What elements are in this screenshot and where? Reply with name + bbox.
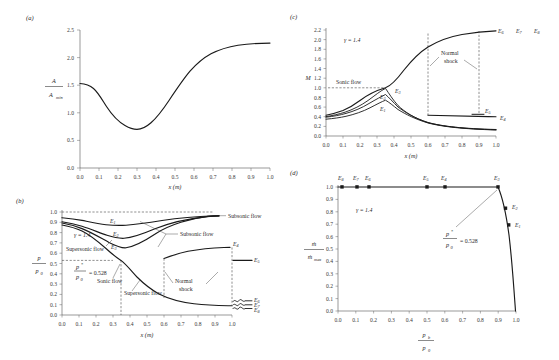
panel-c-e3-curve <box>326 88 496 129</box>
panel-b-critical-denominator: p <box>75 273 79 280</box>
panel-c-ytick-10: 2.0 <box>314 37 321 43</box>
panel-b-ytick-9: 0.9 <box>50 219 57 225</box>
panel-a-ytick-4: 2.0 <box>67 55 74 61</box>
panel-d-ytick-5: 0.5 <box>326 246 333 252</box>
panel-c-ytick-8: 1.6 <box>314 56 321 62</box>
panel-d-markers <box>340 185 510 226</box>
panel-c-gamma-label: γ = 1.4 <box>344 37 360 43</box>
panel-b-xtick-4: 0.4 <box>127 321 134 327</box>
panel-a-y-axis-label: A A min <box>45 77 63 100</box>
panel-d-critical-value: = 0.528 <box>460 238 478 244</box>
panel-b-ytick-10: 1.0 <box>50 209 57 215</box>
panel-a-tag: (a) <box>26 14 34 22</box>
panel-b-e1-curve <box>62 216 219 226</box>
panel-b-ytick-4: 0.4 <box>50 271 57 277</box>
panel-c-xtick-9: 0.9 <box>476 142 483 148</box>
panel-c: (c) 0.0 0.2 0.4 0.6 0.8 1.0 1.2 1.4 1.6 … <box>288 8 556 168</box>
panel-d-ylabel-denominator: ṁ <box>308 253 313 260</box>
panel-c-ytick-6: 1.2 <box>314 75 321 81</box>
panel-a-x-axis-label: x (m) <box>168 183 182 191</box>
panel-b-ytick-2: 0.2 <box>50 291 57 297</box>
panel-b-critical-numerator: p <box>75 263 79 270</box>
panel-b-ylabel-denominator-sub: 0 <box>41 271 44 276</box>
panel-c-x-ticks: 0.0 0.1 0.2 0.3 0.4 0.5 0.6 0.7 0.8 0.9 … <box>323 136 500 148</box>
panel-b-ylabel-numerator: p <box>36 254 40 261</box>
panel-c-xtick-0: 0.0 <box>323 142 330 148</box>
panel-c-label-e8: E8 <box>533 28 541 35</box>
panel-a-xtick-1: 0.1 <box>96 174 103 180</box>
panel-d-ytick-0: 0.0 <box>326 308 333 314</box>
panel-d-label-e4: E4 <box>440 175 447 182</box>
panel-b-label-e4: E4 <box>232 241 239 248</box>
panel-b-xtick-5: 0.5 <box>144 321 151 327</box>
panel-c-label-e4: E4 <box>499 115 506 122</box>
panel-d-marker-e1 <box>507 223 510 226</box>
panel-b-label-e1: E1 <box>109 218 116 225</box>
panel-d-marker-e2 <box>504 207 507 210</box>
panel-c-ytick-4: 0.8 <box>314 95 321 101</box>
panel-a-xtick-4: 0.4 <box>153 174 160 180</box>
panel-d-xtick-6: 0.6 <box>441 317 448 323</box>
panel-a-ylabel-numerator: A <box>51 77 56 84</box>
panel-c-curve-labels: E6 E7 E8 E3 E2 E1 E5 E4 <box>379 28 541 122</box>
panel-d-label-e6: E6 <box>364 175 372 182</box>
panel-d-tag: (d) <box>290 169 298 177</box>
panel-c-x-axis-label: x (m) <box>404 152 418 160</box>
panel-b-y-axis-label: p p 0 <box>32 254 46 276</box>
panel-d-xlabel-denominator-sub: 0 <box>428 348 431 353</box>
panel-b-supersonic-flow-label-2: Supersonic flow <box>124 290 163 296</box>
panel-b-ytick-8: 0.8 <box>50 230 57 236</box>
panel-c-ytick-3: 0.6 <box>314 104 321 110</box>
panel-b-ytick-5: 0.5 <box>50 261 57 267</box>
panel-d-gamma-label: γ = 1.4 <box>356 207 372 213</box>
panel-b-x-ticks: 0.0 0.1 0.2 0.3 0.4 0.5 0.6 0.7 0.8 0.9 … <box>59 315 236 327</box>
panel-c-label-e5: E5 <box>484 108 491 115</box>
panel-d-xtick-8: 0.8 <box>477 317 484 323</box>
panel-b-xtick-10: 1.0 <box>229 321 236 327</box>
panel-d-marker-e3 <box>496 185 499 188</box>
panel-c-shock-leader-right <box>464 60 477 69</box>
panel-a-svg: (a) 0.0 0.5 1.0 1.5 2.0 2.5 0.0 0.1 0.2 … <box>20 8 280 183</box>
panel-d-label-e7: E7 <box>352 175 360 182</box>
panel-b-normal-shock-label-line1: Normal <box>175 278 193 284</box>
panel-a-ytick-2: 1.0 <box>67 110 74 116</box>
panel-c-label-e3: E3 <box>394 88 401 95</box>
panel-b-tag: (b) <box>16 197 24 205</box>
panel-d-label-e1: E1 <box>514 222 521 229</box>
panel-b-critical-denominator-sub: 0 <box>81 277 84 282</box>
panel-d: (d) 0.0 0.1 0.2 0.3 0.4 0.5 0.6 0.7 0.8 … <box>288 165 556 360</box>
panel-c-e4-postshock-curve <box>428 115 496 117</box>
panel-d-ytick-10: 1.0 <box>326 184 333 190</box>
panel-a-xtick-0: 0.0 <box>77 174 84 180</box>
panel-b-ytick-7: 0.7 <box>50 240 57 246</box>
panel-b-normal-shock-label-line2: shock <box>179 286 193 292</box>
panel-d-xlabel-numerator-sub: b <box>428 335 431 340</box>
panel-b: (b) 0.0 0.1 0.2 0.3 0.4 0.5 0.6 0.7 0.8 … <box>14 192 294 360</box>
panel-c-sonic-flow-label: Sonic flow <box>336 79 362 85</box>
panel-d-ytick-6: 0.6 <box>326 234 333 240</box>
panel-b-subsonic-flow-mid-label: Subsonic flow <box>180 231 214 237</box>
panel-d-marker-e7 <box>355 185 358 188</box>
panel-d-marker-e8 <box>340 185 343 188</box>
panel-d-ytick-4: 0.4 <box>326 258 333 264</box>
panel-d-critical-numerator: p <box>445 230 449 237</box>
panel-d-label-e2: E2 <box>511 204 518 211</box>
panel-a-y-ticks: 0.0 0.5 1.0 1.5 2.0 2.5 <box>67 27 80 171</box>
panel-c-y-axis-label: M <box>304 74 311 81</box>
panel-d-y-axis-label: ṁ ṁ max <box>304 240 324 262</box>
panel-d-ytick-9: 0.9 <box>326 196 333 202</box>
panel-d-ylabel-numerator: ṁ <box>312 240 317 247</box>
panel-d-xtick-10: 1.0 <box>513 317 520 323</box>
panel-c-xtick-3: 0.3 <box>374 142 381 148</box>
panel-d-xtick-5: 0.5 <box>424 317 431 323</box>
panel-a-xtick-8: 0.8 <box>229 174 236 180</box>
panel-c-ytick-9: 1.8 <box>314 46 321 52</box>
panel-d-critical-ratio-annotation: p * p 0 = 0.528 <box>443 190 497 250</box>
panel-c-xtick-4: 0.4 <box>391 142 398 148</box>
panel-d-xtick-7: 0.7 <box>459 317 466 323</box>
panel-b-xtick-9: 0.9 <box>212 321 219 327</box>
panel-b-xtick-1: 0.1 <box>76 321 83 327</box>
panel-c-normal-shock-label-line2: shock <box>444 58 458 64</box>
panel-a-area-curve <box>80 43 270 129</box>
panel-d-xtick-2: 0.2 <box>370 317 377 323</box>
